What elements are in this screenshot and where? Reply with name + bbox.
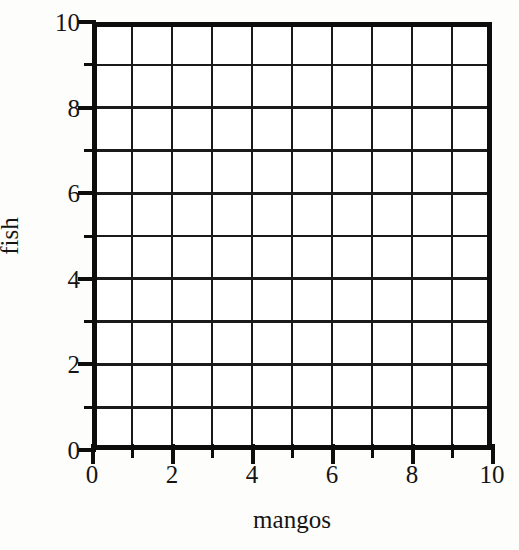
x-tick-label-10: 10 [462, 462, 519, 487]
y-tick-label-6: 6 [68, 181, 81, 206]
y-tick-label-10: 10 [55, 10, 80, 35]
y-tick-label-0: 0 [68, 438, 81, 463]
x-tick-label-0: 0 [62, 462, 122, 487]
graph-figure: 10 8 6 4 2 0 0 2 4 6 8 10 fish mangos [0, 0, 519, 550]
x-tick-label-6: 6 [302, 462, 362, 487]
y-tick-label-4: 4 [68, 266, 81, 291]
y-tick-label-2: 2 [68, 352, 81, 377]
x-tick-label-8: 8 [382, 462, 442, 487]
plot-area [92, 22, 492, 450]
x-axis-title: mangos [253, 506, 331, 534]
grid-lines [92, 22, 492, 450]
x-tick-label-2: 2 [142, 462, 202, 487]
y-tick-label-8: 8 [68, 95, 81, 120]
x-tick-label-4: 4 [222, 462, 282, 487]
y-axis-title: fish [0, 217, 24, 255]
y-axis-ticks [72, 14, 98, 458]
